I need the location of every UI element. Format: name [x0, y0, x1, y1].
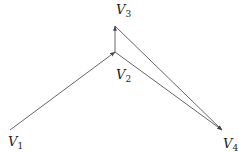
- node-label-v4-letter: V: [223, 136, 232, 151]
- node-label-v1-letter: V: [8, 134, 17, 149]
- edge-v1-v2: [10, 52, 115, 130]
- node-label-v2-subscript: 2: [125, 74, 131, 84]
- edge-v2-v4: [115, 52, 222, 130]
- node-label-v1-subscript: 1: [17, 141, 23, 151]
- node-label-v4-subscript: 4: [232, 143, 238, 152]
- node-label-v3: V3: [116, 3, 131, 19]
- node-label-v2-letter: V: [116, 67, 125, 82]
- node-label-v3-subscript: 3: [125, 9, 131, 19]
- node-label-v1: V1: [8, 135, 23, 151]
- node-label-v3-letter: V: [116, 2, 125, 17]
- node-label-v4: V4: [223, 137, 238, 152]
- node-label-v2: V2: [116, 68, 131, 84]
